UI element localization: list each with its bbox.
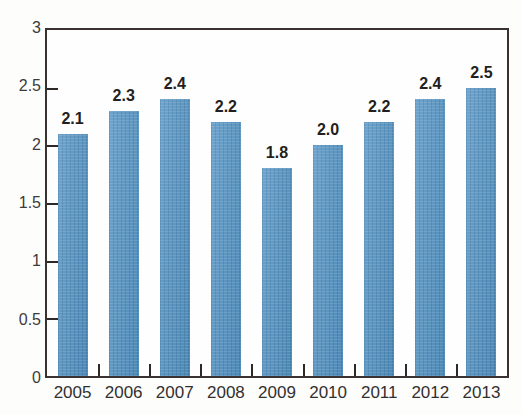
plot-area: 2.12.32.42.21.82.02.22.42.5 [47,30,507,376]
bar-value-label: 2.0 [317,122,339,138]
bar [58,134,88,376]
x-axis-tick-label: 2005 [47,384,98,401]
bar [415,99,445,376]
y-axis: 00.511.522.53 [0,0,41,414]
bar [160,99,190,376]
bar-value-label: 2.1 [61,111,83,127]
x-axis-tick-label: 2007 [149,384,200,401]
bar [364,122,394,376]
x-axis-tick-label: 2012 [405,384,456,401]
x-axis-tick-label: 2013 [456,384,507,401]
y-axis-tick-label: 3 [3,20,41,36]
bar-value-label: 2.5 [470,65,492,81]
x-axis-tick-mark [200,364,202,376]
bar-group: 2.1 [47,30,98,376]
y-axis-tick-label: 0.5 [3,312,41,328]
bar-group: 1.8 [251,30,302,376]
y-axis-tick-label: 0 [3,370,41,386]
bar-value-label: 1.8 [266,145,288,161]
x-axis-tick-mark [303,364,305,376]
bar-group: 2.4 [405,30,456,376]
bar [466,88,496,376]
bar-value-label: 2.2 [215,99,237,115]
bar [109,111,139,376]
bar-group: 2.4 [149,30,200,376]
y-axis-tick-label: 1 [3,253,41,269]
x-axis-tick-mark [456,364,458,376]
x-axis-tick-mark [251,364,253,376]
bar-group: 2.2 [200,30,251,376]
bar-group: 2.3 [98,30,149,376]
bar [211,122,241,376]
x-axis-tick-label: 2006 [98,384,149,401]
bar-group: 2.2 [354,30,405,376]
x-axis: 200520062007200820092010201120122013 [47,384,507,410]
x-axis-tick-mark [354,364,356,376]
y-axis-tick-label: 1.5 [3,195,41,211]
y-axis-tick-label: 2 [3,137,41,153]
x-axis-tick-label: 2011 [354,384,405,401]
chart-page: 00.511.522.53 2.12.32.42.21.82.02.22.42.… [0,0,521,414]
bar [313,145,343,376]
bar-value-label: 2.4 [419,76,441,92]
x-axis-tick-mark [405,364,407,376]
cropped-title-strip [0,0,521,9]
x-axis-tick-label: 2010 [303,384,354,401]
y-axis-tick-label: 2.5 [3,78,41,94]
bar-group: 2.5 [456,30,507,376]
bar-value-label: 2.3 [113,88,135,104]
bar-value-label: 2.2 [368,99,390,115]
x-axis-tick-label: 2009 [251,384,302,401]
x-axis-tick-mark [149,364,151,376]
bar [262,168,292,376]
bar-value-label: 2.4 [164,76,186,92]
bar-group: 2.0 [303,30,354,376]
x-axis-tick-mark [98,364,100,376]
x-axis-tick-label: 2008 [200,384,251,401]
